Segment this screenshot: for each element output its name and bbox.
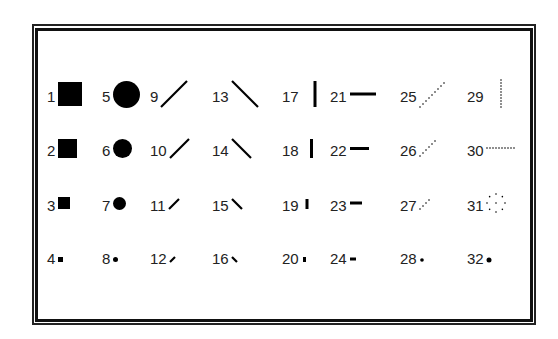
marker-number: 27 xyxy=(400,198,417,213)
marker-item-30: 30 xyxy=(467,135,516,165)
hbar-marker-icon xyxy=(349,138,370,163)
marker-item-14: 14 xyxy=(212,135,252,165)
vbar-marker-icon xyxy=(301,249,308,267)
marker-item-19: 19 xyxy=(282,190,313,220)
marker-item-21: 21 xyxy=(330,81,377,111)
marker-item-22: 22 xyxy=(330,135,370,165)
square-marker-icon xyxy=(57,196,71,214)
marker-item-23: 23 xyxy=(330,190,363,220)
marker-item-11: 11 xyxy=(150,190,180,220)
marker-number: 15 xyxy=(212,198,229,213)
vbar-marker-icon xyxy=(301,196,313,214)
hbar-marker-icon xyxy=(349,249,357,267)
hbar-marker-icon xyxy=(349,196,363,214)
marker-item-12: 12 xyxy=(150,243,176,273)
backslash-marker-icon xyxy=(231,138,252,163)
dot-marker-icon xyxy=(486,249,492,267)
circle-marker-icon xyxy=(112,249,119,267)
square-marker-icon xyxy=(57,138,78,163)
marker-number: 7 xyxy=(102,198,110,213)
circle-marker-icon xyxy=(112,80,141,113)
marker-number: 20 xyxy=(282,251,299,266)
dotslash-marker-icon xyxy=(419,139,437,161)
marker-number: 31 xyxy=(467,198,484,213)
slash-marker-icon xyxy=(168,196,180,214)
marker-number: 10 xyxy=(150,143,167,158)
marker-number: 9 xyxy=(150,89,158,104)
vbar-marker-icon xyxy=(301,80,329,112)
dotslash-marker-icon xyxy=(419,80,447,112)
slash-marker-icon xyxy=(169,138,190,163)
marker-number: 17 xyxy=(282,89,299,104)
marker-number: 4 xyxy=(47,251,55,266)
marker-item-3: 3 xyxy=(47,190,71,220)
marker-number: 22 xyxy=(330,143,347,158)
marker-item-1: 1 xyxy=(47,81,83,111)
marker-item-32: 32 xyxy=(467,243,492,273)
marker-item-31: 31 xyxy=(467,190,506,220)
marker-item-6: 6 xyxy=(102,135,133,165)
marker-item-13: 13 xyxy=(212,81,259,111)
backslash-marker-icon xyxy=(231,196,243,214)
marker-number: 6 xyxy=(102,143,110,158)
marker-number: 1 xyxy=(47,89,55,104)
marker-item-15: 15 xyxy=(212,190,243,220)
marker-item-16: 16 xyxy=(212,243,238,273)
marker-number: 12 xyxy=(150,251,167,266)
dot-marker-icon xyxy=(419,249,425,267)
marker-number: 26 xyxy=(400,143,417,158)
marker-item-28: 28 xyxy=(400,243,425,273)
marker-number: 23 xyxy=(330,198,347,213)
marker-item-17: 17 xyxy=(282,81,329,111)
vbar-marker-icon xyxy=(301,138,322,163)
marker-item-18: 18 xyxy=(282,135,322,165)
marker-number: 28 xyxy=(400,251,417,266)
marker-item-9: 9 xyxy=(150,81,188,111)
marker-number: 32 xyxy=(467,251,484,266)
inner-frame-border xyxy=(35,28,533,322)
dotslash-marker-icon xyxy=(419,196,430,214)
marker-number: 30 xyxy=(467,143,484,158)
marker-item-27: 27 xyxy=(400,190,430,220)
marker-item-7: 7 xyxy=(102,190,127,220)
marker-item-26: 26 xyxy=(400,135,437,165)
slash-marker-icon xyxy=(169,249,176,267)
marker-number: 8 xyxy=(102,251,110,266)
marker-item-24: 24 xyxy=(330,243,357,273)
marker-number: 11 xyxy=(150,198,166,213)
marker-number: 2 xyxy=(47,143,55,158)
marker-item-5: 5 xyxy=(102,81,141,111)
marker-number: 16 xyxy=(212,251,229,266)
marker-item-4: 4 xyxy=(47,243,64,273)
marker-item-20: 20 xyxy=(282,243,308,273)
hbar-marker-icon xyxy=(349,80,377,112)
marker-item-8: 8 xyxy=(102,243,119,273)
backslash-marker-icon xyxy=(231,249,238,267)
marker-number: 21 xyxy=(330,89,347,104)
marker-item-2: 2 xyxy=(47,135,78,165)
marker-number: 29 xyxy=(467,89,484,104)
dothbar-marker-icon xyxy=(486,133,516,167)
dotvbar-marker-icon xyxy=(486,79,516,113)
square-marker-icon xyxy=(57,81,83,111)
slash-marker-icon xyxy=(160,80,188,112)
dotcircle-marker-icon xyxy=(486,193,506,217)
circle-marker-icon xyxy=(112,138,133,163)
marker-number: 13 xyxy=(212,89,229,104)
marker-item-29: 29 xyxy=(467,81,516,111)
marker-number: 3 xyxy=(47,198,55,213)
circle-marker-icon xyxy=(112,196,127,215)
marker-number: 14 xyxy=(212,143,229,158)
marker-number: 24 xyxy=(330,251,347,266)
marker-number: 18 xyxy=(282,143,299,158)
square-marker-icon xyxy=(57,249,64,267)
marker-item-10: 10 xyxy=(150,135,190,165)
marker-number: 25 xyxy=(400,89,417,104)
backslash-marker-icon xyxy=(231,80,259,112)
marker-item-25: 25 xyxy=(400,81,447,111)
marker-number: 5 xyxy=(102,89,110,104)
marker-number: 19 xyxy=(282,198,299,213)
